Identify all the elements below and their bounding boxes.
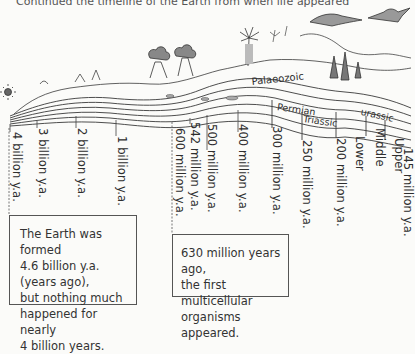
note-line: organisms appeared. (181, 309, 288, 341)
tick-label-300-million: 300 million y.a. (271, 126, 283, 215)
pterosaur-icon (310, 8, 410, 26)
note-line: the first multicellular (181, 277, 288, 309)
tick-label-400-million: 400 million y.a. (237, 124, 249, 213)
tick-label-200-million: 200 million y.a. (335, 138, 347, 227)
dinosaur-outline-icon (300, 34, 411, 58)
tick-label-250-million: 250 million y.a. (301, 140, 313, 229)
tick-label-500-million: 500 million y.a. (206, 124, 218, 213)
tick-label-lower-jurassic: Lower (354, 136, 366, 171)
tick-label-542-million: 542 million y.a. (189, 122, 201, 211)
note-line: 4.6 billion y.a. (years ago), (20, 258, 136, 290)
conifer-trees-icon (330, 52, 361, 80)
note-multicellular-organisms: 630 million years ago, the first multice… (172, 234, 289, 297)
tick-label-3-billion: 3 billion y.a. (37, 128, 49, 198)
tick-label-4-billion: 4 billion y.a. (11, 132, 23, 202)
ground-line (14, 59, 411, 114)
note-line: but nothing much (20, 290, 136, 306)
hill-icon (75, 74, 85, 82)
note-line: happened for nearly (20, 306, 136, 338)
tick-label-600-million: 600 million y.a. (174, 128, 186, 217)
note-line: The Earth was formed (20, 226, 136, 258)
note-line: 630 million years ago, (181, 245, 288, 277)
note-line: 4 billion years. (20, 338, 136, 354)
volcano-icons (149, 45, 196, 78)
sun-icon (0, 84, 16, 100)
tick-label-middle-jurassic: Middle (374, 128, 386, 167)
tick-label-145-million: 145 million y.a. (402, 148, 414, 237)
tick-label-2-billion: 2 billion y.a. (76, 128, 88, 198)
tick-label-1-billion: 1 billion y.a. (116, 136, 128, 206)
hill-icon (92, 70, 100, 80)
palm-tree-icon (240, 27, 259, 66)
note-earth-formed: The Earth was formed 4.6 billion y.a. (y… (9, 215, 137, 305)
small-cloud-icon (40, 81, 48, 84)
